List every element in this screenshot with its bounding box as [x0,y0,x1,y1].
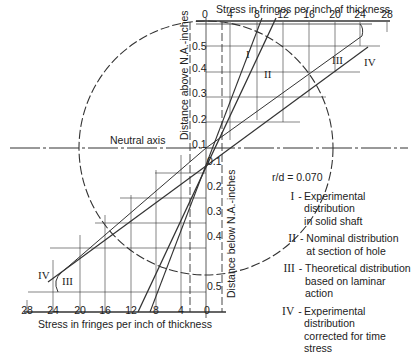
legend-item: II - Nominal distributionat section of h… [262,232,413,257]
legend-item: I - Experimental distributionin solid sh… [262,190,413,228]
lower-tick: 0.2 [207,180,222,192]
legend: r/d = 0.070 I - Experimental distributio… [262,171,413,356]
top-tick: 20 [329,8,341,20]
top-tick: 0 [202,8,208,20]
curve-label-I: I [246,48,250,60]
curve-label-III-top: III [332,54,343,66]
lower-tick: 0.3 [207,205,222,217]
lower-vertical-axis-title: Distance below N.A.-inches [225,170,237,298]
legend-numeral: IV [262,305,295,355]
upper-tick: 0.5 [192,40,207,52]
bottom-tick: 20 [74,304,86,316]
ratio-label: r/d = 0.070 [272,171,413,184]
lower-tick: 0.1 [207,155,222,167]
top-tick: 24 [354,8,366,20]
top-tick: 28 [381,8,393,20]
bottom-tick: 4 [178,304,184,316]
legend-item: IV - Experimental distributioncorrected … [262,305,413,355]
top-tick: 12 [277,8,289,20]
upper-tick: 0.2 [192,113,207,125]
bottom-tick: 24 [47,304,59,316]
neutral-axis-label: Neutral axis [110,134,165,146]
curve-label-IV-bottom: IV [38,269,50,281]
bottom-tick: 28 [21,304,33,316]
upper-tick: 0.3 [192,87,207,99]
legend-numeral: III [262,262,296,300]
legend-numeral: II [262,232,297,257]
curve-label-III-bottom: III [62,275,73,287]
bottom-tick: 0 [204,304,210,316]
curve-label-II: II [264,68,271,80]
bottom-axis-title: Stress in fringes per inch of thickness [38,318,212,330]
lower-tick: 0.5 [207,280,222,292]
curve-label-IV-top: IV [364,56,376,68]
top-tick: 16 [303,8,315,20]
top-tick: 4 [227,8,233,20]
top-tick: 8 [254,8,260,20]
bottom-tick: 8 [153,304,159,316]
bottom-tick: 12 [125,304,137,316]
bottom-tick: 16 [99,304,111,316]
upper-tick: 0.4 [192,62,207,74]
legend-numeral: I [262,190,295,228]
lower-tick: 0.4 [207,230,222,242]
legend-item: III - Theoretical distributionbased on l… [262,262,413,300]
upper-vertical-axis-title: Distance above N.A.-inches [178,10,190,140]
upper-tick: 0.1 [192,138,207,150]
